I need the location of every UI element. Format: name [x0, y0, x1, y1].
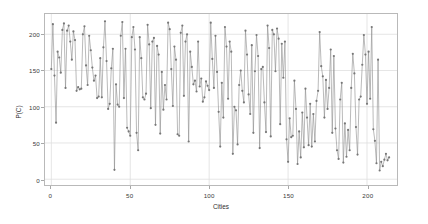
x-tick-label: 100 [204, 192, 215, 199]
y-tick-mark [41, 180, 44, 181]
x-tick-mark [50, 186, 51, 189]
y-tick-mark [41, 107, 44, 108]
x-tick-mark [209, 186, 210, 189]
x-tick-mark [368, 186, 369, 189]
x-tick-label: 200 [362, 192, 373, 199]
y-tick-label: 100 [29, 103, 40, 110]
y-tick-label: 150 [29, 67, 40, 74]
x-tick-mark [130, 186, 131, 189]
y-tick-label: 0 [36, 177, 40, 184]
y-tick-mark [41, 143, 44, 144]
y-tick-label: 50 [33, 140, 40, 147]
y-axis-label: P(C) [15, 105, 22, 118]
x-tick-label: 50 [126, 192, 133, 199]
y-tick-mark [41, 34, 44, 35]
data-series-line [45, 14, 397, 185]
chart-figure: P(C) Cities 050100150200 050100150200 [0, 0, 428, 224]
plot-area [44, 13, 398, 186]
x-tick-mark [288, 186, 289, 189]
x-tick-label: 0 [49, 192, 53, 199]
y-tick-mark [41, 70, 44, 71]
x-axis-label: Cities [44, 203, 398, 210]
x-tick-label: 150 [283, 192, 294, 199]
y-tick-label: 200 [29, 30, 40, 37]
